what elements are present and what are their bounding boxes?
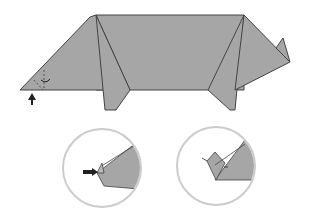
pig-main [20, 15, 290, 110]
origami-diagram [0, 0, 312, 220]
push-arrow-icon [28, 93, 36, 105]
detail-circle-result [177, 127, 260, 205]
detail-circle-push [63, 129, 150, 207]
